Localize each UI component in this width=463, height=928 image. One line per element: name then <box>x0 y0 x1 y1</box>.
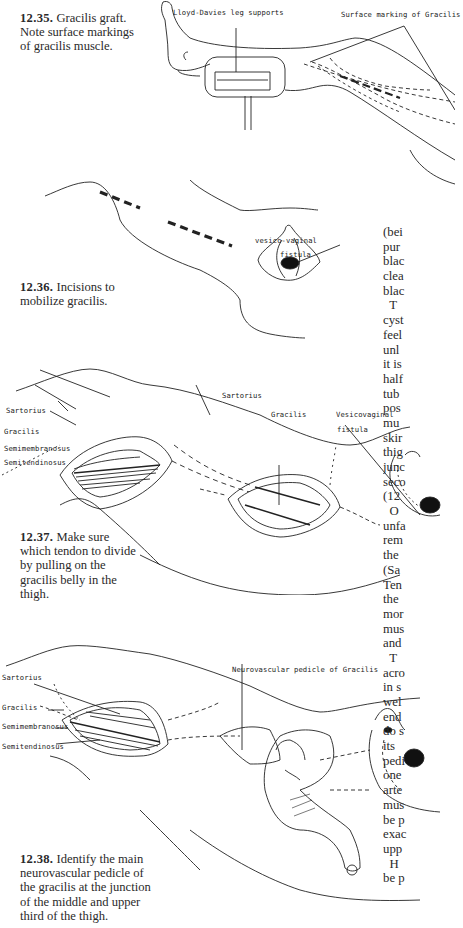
body-text-line: cyst <box>383 313 463 328</box>
label-sartorius-38: Sartorius <box>2 673 42 682</box>
body-text-line: (bei <box>383 225 463 240</box>
body-text-line: junc <box>383 460 463 475</box>
figure-caption-12-36: 12.36. Incisions to mobilize gracilis. <box>20 280 140 308</box>
body-text-line: blac <box>383 284 463 299</box>
body-text-line: skir <box>383 431 463 446</box>
label-gracilis-38: Gracilis <box>2 703 37 712</box>
body-text-line: unl <box>383 343 463 358</box>
figure-caption-12-35: 12.35. Gracilis graft. Note surface mark… <box>20 11 140 54</box>
body-text-line: it is <box>383 357 463 372</box>
figure-caption-12-37: 12.37. Make sure which tendon to divide … <box>20 530 140 601</box>
body-text-line: upp <box>383 842 463 857</box>
label-leg-supports: Lloyd-Davies leg supports <box>173 8 284 17</box>
body-text-line: (Sa <box>383 563 463 578</box>
body-text-line: pedi <box>383 754 463 769</box>
body-text-line: the <box>383 592 463 607</box>
label-gracilis: Gracilis <box>4 427 39 436</box>
label-semitendinosus-38: Semitendinosus <box>2 742 64 751</box>
body-text-line: rem <box>383 533 463 548</box>
body-text-line: tub <box>383 387 463 402</box>
body-text-line: T <box>383 298 463 313</box>
body-text-column: (beipurblaccleablac Tcystfeelunlit ishal… <box>383 225 463 886</box>
body-text-line: mu <box>383 416 463 431</box>
body-text-line: be p <box>383 813 463 828</box>
label-gracilis-mid: Gracilis <box>271 410 306 419</box>
body-text-line: pos <box>383 401 463 416</box>
body-text-line: Ten <box>383 578 463 593</box>
label-semitendinosus: Semitendinosus <box>4 458 66 467</box>
body-text-line: wel <box>383 695 463 710</box>
body-text-line: pur <box>383 240 463 255</box>
body-text-line: seco <box>383 475 463 490</box>
body-text-line: H <box>383 857 463 872</box>
body-text-line: do s <box>383 724 463 739</box>
label-semimembranosus-38: Semimembranosus <box>2 722 68 731</box>
label-sartorius-mid: Sartorius <box>222 391 262 400</box>
body-text-line: clea <box>383 269 463 284</box>
figure-number: 12.36. <box>20 280 53 294</box>
figure-number: 12.37. <box>20 530 53 544</box>
body-text-line: acro <box>383 666 463 681</box>
body-text-line: unfa <box>383 519 463 534</box>
body-text-line: the <box>383 548 463 563</box>
body-text-line: be p <box>383 871 463 886</box>
body-text-line: mor <box>383 607 463 622</box>
body-text-line: mus <box>383 622 463 637</box>
body-text-line: mus <box>383 798 463 813</box>
label-fistula-37: fistula <box>337 425 368 434</box>
label-fistula: fistula <box>280 250 311 259</box>
body-text-line: feel <box>383 328 463 343</box>
body-text-line: blac <box>383 254 463 269</box>
body-text-line: and <box>383 636 463 651</box>
body-text-line: O <box>383 504 463 519</box>
label-semimembranosus: Semimembranosus <box>4 444 70 453</box>
label-vesico-vaginal: vesico-vaginal <box>255 236 317 245</box>
body-text-line: arte <box>383 783 463 798</box>
body-text-line: (12 <box>383 489 463 504</box>
figure-number: 12.35. <box>20 11 53 25</box>
body-text-line: its <box>383 739 463 754</box>
body-text-line: in s <box>383 680 463 695</box>
body-text-line: thig <box>383 445 463 460</box>
body-text-line: T <box>383 651 463 666</box>
body-text-line: exac <box>383 827 463 842</box>
figure-caption-12-38: 12.38. Identify the main neurovascular p… <box>20 852 155 923</box>
label-sartorius: Sartorius <box>6 406 46 415</box>
body-text-line: half <box>383 372 463 387</box>
body-text-line: one <box>383 768 463 783</box>
label-surface-marking: Surface marking of Gracilis <box>341 10 461 19</box>
label-neurovascular-pedicle: Neurovascular pedicle of Gracilis <box>232 665 378 674</box>
figure-number: 12.38. <box>20 852 53 866</box>
body-text-line: end <box>383 710 463 725</box>
